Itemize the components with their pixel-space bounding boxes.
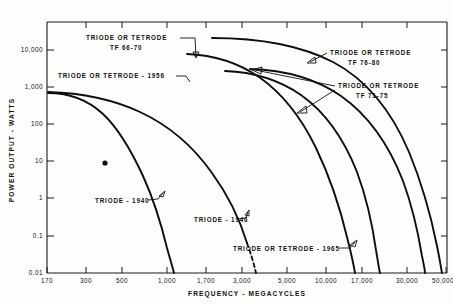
x-tick-label-30000: 30,000	[396, 277, 418, 284]
annotation-tf-66-70-line2: TF 66-70	[110, 44, 142, 51]
annotation-tf-71-75-line2: TF 71-75	[356, 92, 388, 99]
annotation-tetrode-1965-label: TRIODE OR TETRODE - 1965	[233, 245, 340, 252]
x-tick-label-5000: 5,000	[278, 277, 296, 284]
x-tick-label-300: 300	[80, 277, 92, 284]
data-point-marker	[102, 160, 107, 165]
curve-triode-or-tetrode-1956	[187, 54, 355, 273]
x-axis-ticks	[47, 267, 446, 273]
x-tick-label-1000: 1,000	[158, 277, 176, 284]
x-tick-label-1700: 1,700	[197, 277, 215, 284]
x-tick-label-170: 170	[41, 277, 53, 284]
annotation-triode-1946: TRIODE - 1946	[194, 210, 249, 223]
curve-tf-71-75	[250, 69, 425, 273]
x-tick-label-50000: 50,000	[432, 277, 453, 284]
annotation-triode-1946-label: TRIODE - 1946	[194, 216, 248, 223]
y-axis-right-ticks	[441, 50, 447, 236]
annotation-triode-1940-label: TRIODE - 1940	[95, 197, 149, 204]
annotation-tetrode-1965: TRIODE OR TETRODE - 1965	[233, 240, 357, 252]
y-tick-label-100: 100	[31, 120, 43, 127]
annotation-tf-66-70-line1: TRIODE OR TETRODE	[86, 34, 167, 41]
power-output-vs-frequency-chart: 170 300 500 1,000 1,700 3,000 5,000 10,0…	[0, 0, 453, 304]
annotation-tetrode-1956: TRIODE OR TETRODE - 1956	[58, 72, 190, 82]
x-tick-label-500: 500	[116, 277, 128, 284]
x-tick-label-3000: 3,000	[233, 277, 251, 284]
y-tick-label-1: 1	[39, 194, 43, 201]
x-tick-label-17000: 17,000	[351, 277, 373, 284]
annotation-tetrode-1956-leader	[176, 76, 190, 82]
annotation-tf-76-80-line1: TRIODE OR TETRODE	[330, 49, 411, 56]
y-tick-label-0p1: 0.1	[33, 232, 43, 239]
y-tick-label-1000: 1,000	[25, 83, 43, 90]
annotation-tf-71-75: TRIODE OR TETRODE TF 71-75	[252, 67, 419, 113]
y-tick-label-0p01: 0.01	[29, 269, 43, 276]
y-axis-title: POWER OUTPUT - WATTS	[8, 98, 15, 202]
annotation-tf-66-70: TRIODE OR TETRODE TF 66-70	[86, 34, 199, 58]
x-axis-top-ticks	[86, 22, 407, 28]
y-tick-label-10000: 10,000	[21, 46, 43, 53]
y-axis-ticks	[47, 50, 54, 236]
annotation-tf-71-75-line1: TRIODE OR TETRODE	[338, 82, 419, 89]
curve-tf-66-70	[225, 71, 380, 273]
annotation-tetrode-1956-label: TRIODE OR TETRODE - 1956	[58, 72, 165, 79]
x-tick-label-10000: 10,000	[315, 277, 337, 284]
x-tick-labels: 170 300 500 1,000 1,700 3,000 5,000 10,0…	[41, 277, 453, 284]
y-tick-label-10: 10	[35, 157, 43, 164]
annotation-triode-1940-arrowhead	[159, 191, 165, 197]
annotation-tf-71-75-arrowhead-lower	[297, 106, 307, 113]
annotation-tf-76-80-line2: TF 76-80	[348, 59, 380, 66]
chart-figure: 170 300 500 1,000 1,700 3,000 5,000 10,0…	[0, 0, 453, 304]
x-axis-title: FREQUENCY - MEGACYCLES	[188, 290, 306, 298]
y-tick-labels: 10,000 1,000 100 10 1 0.1 0.01	[21, 46, 43, 276]
